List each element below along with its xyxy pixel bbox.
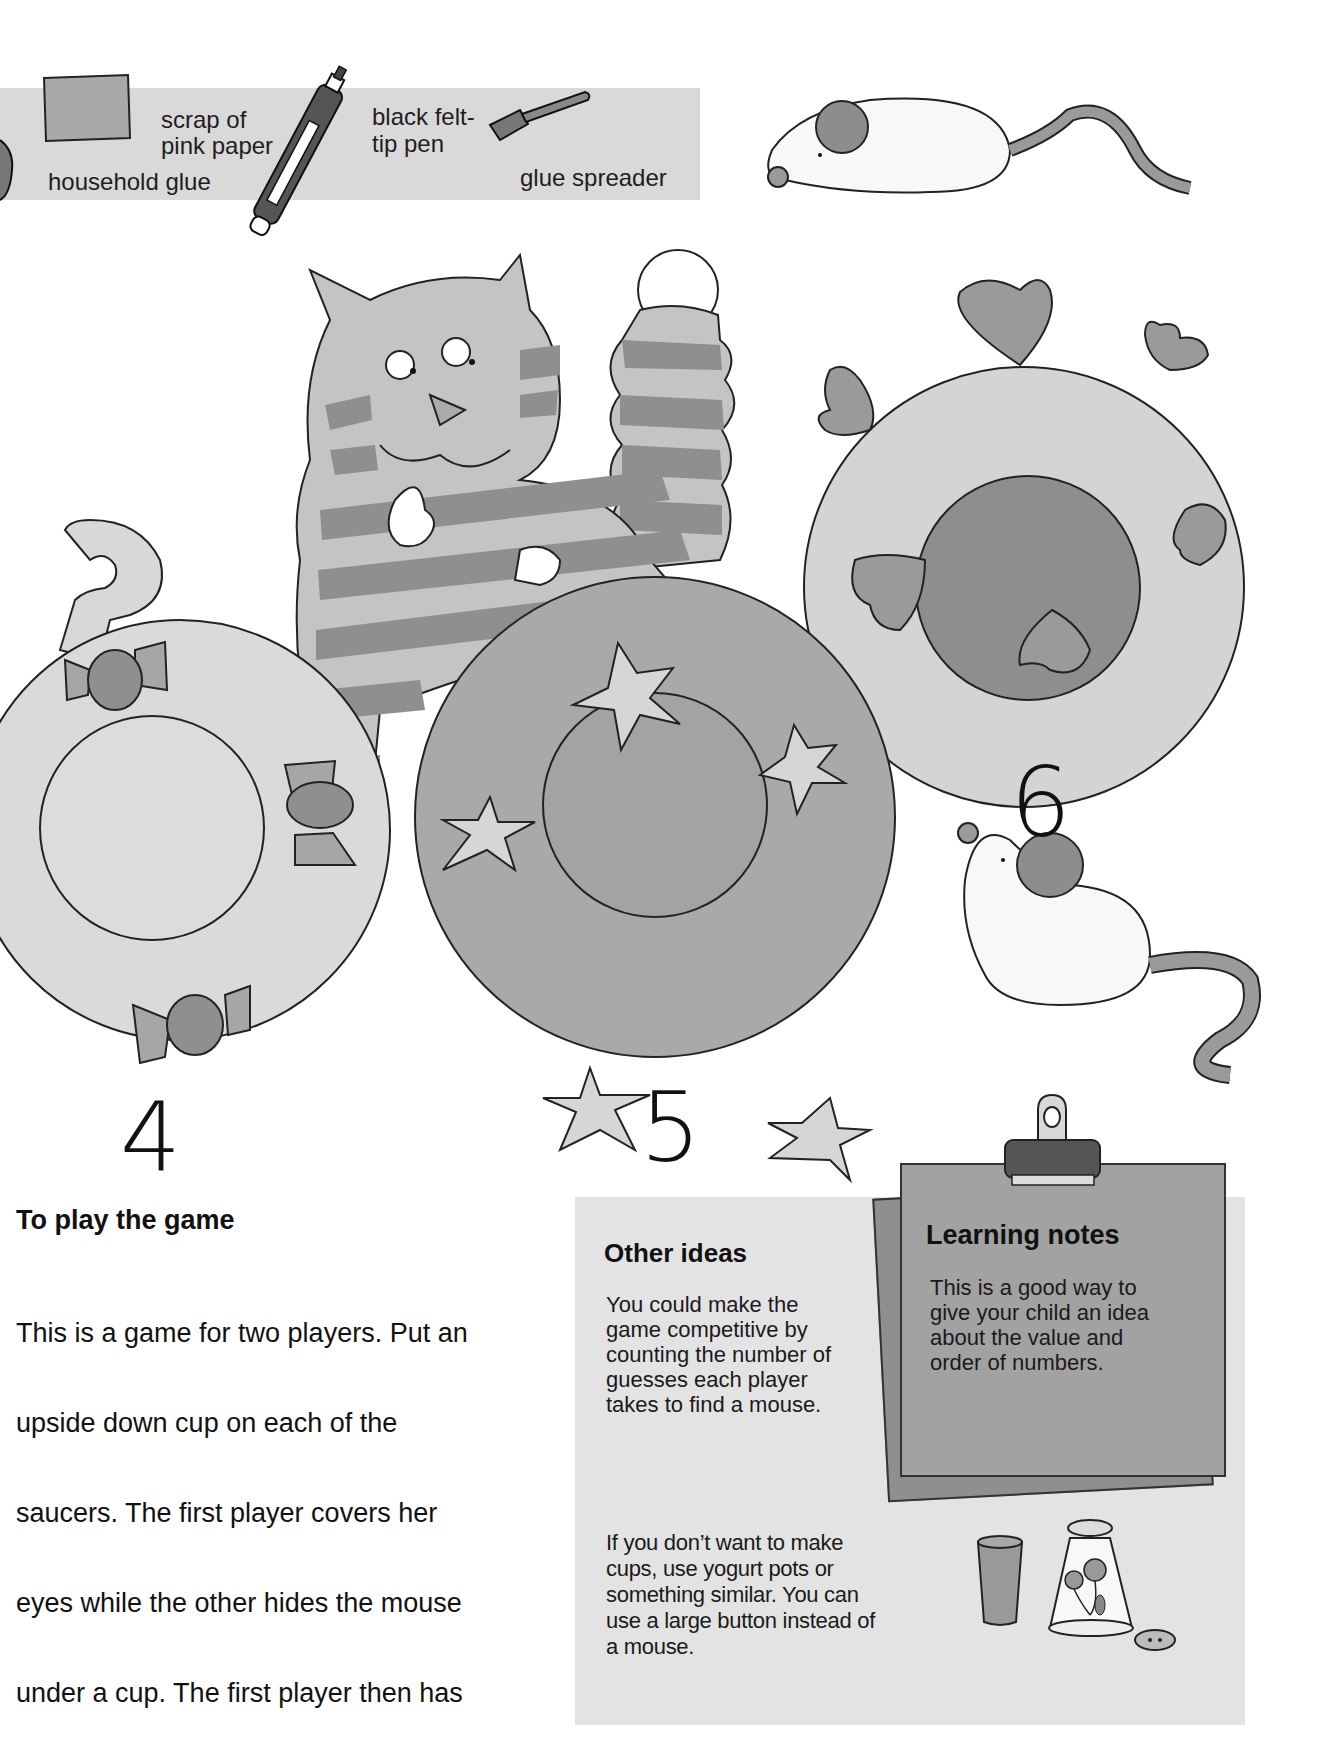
play-text-line: saucers. The first player covers her	[16, 1498, 472, 1528]
material-label-scrap-2: pink paper	[161, 134, 273, 158]
other-ideas-alt-line: a mouse.	[606, 1634, 875, 1660]
other-ideas-title: Other ideas	[604, 1238, 747, 1269]
learning-notes-line: give your child an idea	[930, 1300, 1149, 1325]
other-ideas-alt-text: If you don’t want to make cups, use yogu…	[606, 1530, 875, 1660]
button-icon	[1135, 1630, 1175, 1650]
saucer-number-5: 5	[640, 1080, 701, 1176]
saucer-number-6: 6	[1010, 755, 1071, 851]
paper-scrap-icon	[44, 75, 130, 141]
spreader-icon	[490, 92, 589, 140]
learning-notes-title: Learning notes	[926, 1220, 1120, 1251]
saucer-4	[0, 620, 390, 1063]
material-label-scrap-1: scrap of	[161, 108, 246, 132]
bulldog-clip-icon	[1000, 1085, 1110, 1195]
learning-notes-line: about the value and	[930, 1325, 1149, 1350]
play-text-line: under a cup. The first player then has	[16, 1678, 472, 1708]
play-section-text: This is a game for two players. Put an u…	[16, 1258, 472, 1740]
other-ideas-alt-line: use a large button instead of	[606, 1608, 875, 1634]
plain-cup-icon	[978, 1536, 1022, 1625]
other-ideas-alt-line: cups, use yogurt pots or	[606, 1556, 875, 1582]
material-label-glue: household glue	[48, 170, 211, 194]
other-ideas-text: You could make the game competitive by c…	[606, 1292, 831, 1417]
play-text-line: eyes while the other hides the mouse	[16, 1588, 472, 1618]
yogurt-pot-icon	[1049, 1520, 1133, 1636]
other-ideas-alt-line: If you don’t want to make	[606, 1530, 875, 1556]
other-ideas-line: counting the number of	[606, 1342, 831, 1367]
play-text-line: This is a game for two players. Put an	[16, 1318, 472, 1348]
cat-tail-icon	[610, 250, 734, 570]
other-ideas-line: guesses each player	[606, 1367, 831, 1392]
other-ideas-alt-line: something similar. You can	[606, 1582, 875, 1608]
game-illustration	[0, 230, 1338, 1190]
material-label-spreader: glue spreader	[520, 166, 667, 190]
other-ideas-line: You could make the	[606, 1292, 831, 1317]
play-text-line: upside down cup on each of the	[16, 1408, 472, 1438]
material-label-pen-1: black felt-	[372, 105, 475, 129]
learning-notes-line: This is a good way to	[930, 1275, 1149, 1300]
material-label-pen-2: tip pen	[372, 132, 444, 156]
saucer-number-4: 4	[120, 1090, 181, 1186]
mouse-toy-icon	[768, 99, 1190, 193]
mouse-toy-icon-lower	[958, 823, 1252, 1075]
cups-and-button-illustration	[970, 1510, 1190, 1650]
other-ideas-line: takes to find a mouse.	[606, 1392, 831, 1417]
glue-bottle-icon	[0, 140, 12, 200]
play-section-title: To play the game	[16, 1205, 235, 1236]
learning-notes-text: This is a good way to give your child an…	[930, 1275, 1149, 1375]
learning-notes-line: order of numbers.	[930, 1350, 1149, 1375]
other-ideas-line: game competitive by	[606, 1317, 831, 1342]
